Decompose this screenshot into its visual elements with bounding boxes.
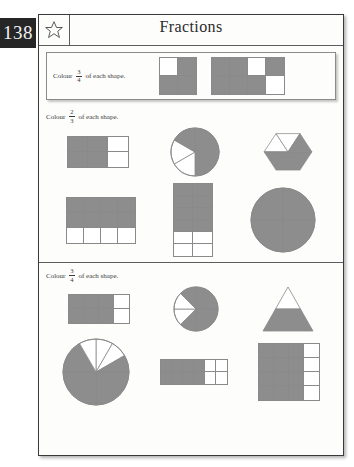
grid-cell[interactable]: [274, 372, 289, 386]
grid-cell[interactable]: [114, 309, 129, 323]
grid-cell[interactable]: [174, 232, 193, 244]
grid-cell[interactable]: [84, 295, 99, 309]
grid-cell[interactable]: [174, 244, 193, 256]
grid-cell[interactable]: [304, 372, 319, 386]
grid-cell[interactable]: [101, 228, 118, 243]
grid-cell[interactable]: [304, 386, 319, 400]
circle-6-sectors-two-thirds[interactable]: [170, 127, 220, 177]
grid-cell[interactable]: [205, 372, 216, 384]
triangle-4-parts-three-quarters[interactable]: [262, 286, 314, 332]
grid-cell[interactable]: [88, 137, 108, 152]
circle-12-sectors-three-quarters[interactable]: [62, 338, 130, 406]
grid-cell[interactable]: [304, 344, 319, 358]
grid-cell[interactable]: [114, 295, 129, 309]
grid-cell[interactable]: [172, 372, 183, 384]
grid-cell[interactable]: [84, 228, 101, 243]
grid-cell[interactable]: [216, 360, 227, 372]
grid-cell[interactable]: [205, 360, 216, 372]
grid-cell[interactable]: [84, 198, 101, 213]
grid-cell[interactable]: [67, 228, 84, 243]
grid-cell[interactable]: [183, 360, 194, 372]
grid-cell[interactable]: [178, 58, 196, 76]
grid-cell[interactable]: [67, 198, 84, 213]
grid-cell[interactable]: [88, 152, 108, 167]
grid-cell[interactable]: [99, 295, 114, 309]
grid-cell[interactable]: [266, 58, 284, 76]
circle-8-sectors-three-quarters[interactable]: [173, 286, 219, 332]
grid-cell[interactable]: [230, 58, 248, 76]
grid-cell[interactable]: [174, 184, 193, 196]
grid-cell[interactable]: [230, 76, 248, 94]
grid-cell[interactable]: [99, 309, 114, 323]
grid-cell[interactable]: [101, 198, 118, 213]
grid-cell[interactable]: [108, 152, 128, 167]
grid-4x2-three-quarters-b[interactable]: [68, 294, 130, 324]
section-2-instruction: Colour23of each shape.: [39, 104, 343, 124]
grid-cell[interactable]: [174, 196, 193, 208]
grid-4x2-three-quarters[interactable]: [211, 57, 285, 95]
grid-4x3-two-thirds[interactable]: [66, 197, 136, 244]
grid-cell[interactable]: [259, 344, 274, 358]
grid-cell[interactable]: [118, 228, 135, 243]
grid-cell[interactable]: [216, 372, 227, 384]
grid-cell[interactable]: [266, 76, 284, 94]
grid-cell[interactable]: [118, 198, 135, 213]
grid-cell[interactable]: [274, 386, 289, 400]
grid-cell[interactable]: [194, 360, 205, 372]
hexagon-6-triangles-two-thirds[interactable]: [261, 127, 315, 177]
grid-cell[interactable]: [68, 152, 88, 167]
grid-cell[interactable]: [67, 213, 84, 228]
grid-cell[interactable]: [289, 386, 304, 400]
grid-4x4-three-quarters[interactable]: [258, 343, 320, 401]
grid-cell[interactable]: [289, 358, 304, 372]
grid-cell[interactable]: [289, 344, 304, 358]
grid-cell[interactable]: [68, 137, 88, 152]
fraction: 23: [69, 109, 75, 124]
grid-cell[interactable]: [160, 76, 178, 94]
grid-cell[interactable]: [194, 372, 205, 384]
grid-cell[interactable]: [174, 208, 193, 220]
grid-cell[interactable]: [108, 137, 128, 152]
grid-cell[interactable]: [193, 196, 212, 208]
grid-cell[interactable]: [178, 76, 196, 94]
instruction-prefix: Colour: [53, 72, 72, 80]
grid-cell[interactable]: [212, 76, 230, 94]
grid-cell[interactable]: [259, 358, 274, 372]
grid-cell[interactable]: [259, 372, 274, 386]
grid-cell[interactable]: [161, 360, 172, 372]
grid-6x2-three-quarters[interactable]: [160, 359, 228, 385]
grid-cell[interactable]: [248, 76, 266, 94]
instruction-suffix: of each shape.: [78, 272, 118, 280]
grid-cell[interactable]: [274, 344, 289, 358]
grid-cell[interactable]: [193, 244, 212, 256]
grid-cell[interactable]: [193, 208, 212, 220]
grid-cell[interactable]: [160, 58, 178, 76]
circle-12-sectors-full[interactable]: [250, 187, 316, 253]
fraction: 34: [69, 268, 75, 283]
grid-2x6-two-thirds[interactable]: [173, 183, 213, 257]
grid-cell[interactable]: [172, 360, 183, 372]
grid-cell[interactable]: [174, 220, 193, 232]
grid-cell[interactable]: [84, 309, 99, 323]
grid-cell[interactable]: [193, 232, 212, 244]
grid-cell[interactable]: [69, 309, 84, 323]
grid-2x2-three-quarters[interactable]: [159, 57, 197, 95]
grid-cell[interactable]: [193, 220, 212, 232]
triangle-part[interactable]: [275, 287, 300, 309]
grid-cell[interactable]: [84, 213, 101, 228]
worksheet-sheet: Fractions Colour34of each shape.Colour23…: [38, 14, 344, 456]
grid-cell[interactable]: [274, 358, 289, 372]
grid-cell[interactable]: [304, 358, 319, 372]
grid-cell[interactable]: [161, 372, 172, 384]
grid-cell[interactable]: [69, 295, 84, 309]
grid-cell[interactable]: [118, 213, 135, 228]
grid-cell[interactable]: [212, 58, 230, 76]
grid-cell[interactable]: [101, 213, 118, 228]
grid-3x2-two-thirds[interactable]: [67, 136, 129, 168]
grid-cell[interactable]: [193, 184, 212, 196]
section-2: Colour23of each shape.: [39, 104, 343, 263]
grid-cell[interactable]: [259, 386, 274, 400]
grid-cell[interactable]: [248, 58, 266, 76]
grid-cell[interactable]: [183, 372, 194, 384]
grid-cell[interactable]: [289, 372, 304, 386]
